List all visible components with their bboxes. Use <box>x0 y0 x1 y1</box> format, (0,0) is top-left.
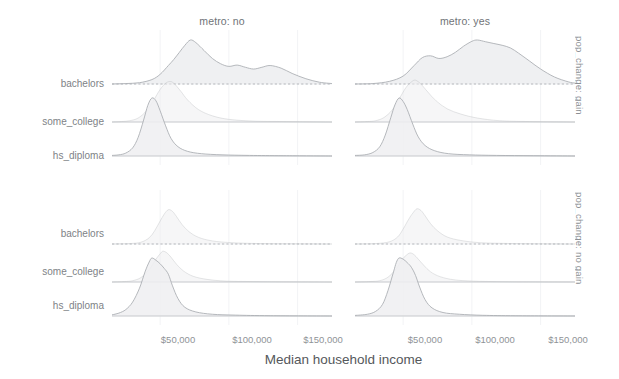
ytick-label-bachelors-bottom: bachelors <box>0 228 104 239</box>
ridge-area-bachelors <box>112 210 332 244</box>
ridge-plot-area <box>355 30 575 165</box>
ridge-outline-some_college <box>355 253 575 282</box>
panel-no-gain-metro-no <box>112 190 332 325</box>
ridge-area-bachelors <box>112 40 332 84</box>
ridge-area-bachelors <box>355 40 575 84</box>
panel-no-gain-metro-yes <box>355 190 575 325</box>
xtick-label-150k-right: $150,000 <box>534 334 602 345</box>
ridge-area-hs_diploma <box>112 258 332 316</box>
ytick-label-hs-diploma-top: hs_diploma <box>0 150 104 161</box>
ridge-plot-area <box>355 190 575 325</box>
xtick-label-50k-right: $50,000 <box>395 334 455 345</box>
facet-row-label-pop-change-no-gain: pop_change: no gain <box>574 192 585 285</box>
ridge-area-hs_diploma <box>112 98 332 156</box>
ytick-label-bachelors-top: bachelors <box>0 78 104 89</box>
ridgeline-facet-figure: metro: no metro: yes pop_change: gain po… <box>0 0 619 379</box>
ytick-label-some-college-top: some_college <box>0 116 104 127</box>
ridge-area-hs_diploma <box>355 258 575 316</box>
facet-col-label-metro-no: metro: no <box>112 15 332 27</box>
ridge-plot-area <box>112 190 332 325</box>
panel-gain-metro-no <box>112 30 332 165</box>
ridge-outline-bachelors <box>112 210 332 244</box>
facet-col-label-metro-yes: metro: yes <box>355 15 575 27</box>
xtick-label-100k-right: $100,000 <box>461 334 529 345</box>
facet-row-label-pop-change-gain: pop_change: gain <box>574 36 585 115</box>
xtick-label-150k-left: $150,000 <box>289 334 357 345</box>
xtick-label-100k-left: $100,000 <box>218 334 286 345</box>
ridge-area-bachelors <box>355 209 575 244</box>
panel-gain-metro-yes <box>355 30 575 165</box>
ytick-label-hs-diploma-bottom: hs_diploma <box>0 300 104 311</box>
ridge-plot-area <box>112 30 332 165</box>
ytick-label-some-college-bottom: some_college <box>0 266 104 277</box>
xtick-label-50k-left: $50,000 <box>148 334 208 345</box>
ridge-outline-bachelors <box>355 209 575 244</box>
x-axis-title: Median household income <box>112 352 575 367</box>
